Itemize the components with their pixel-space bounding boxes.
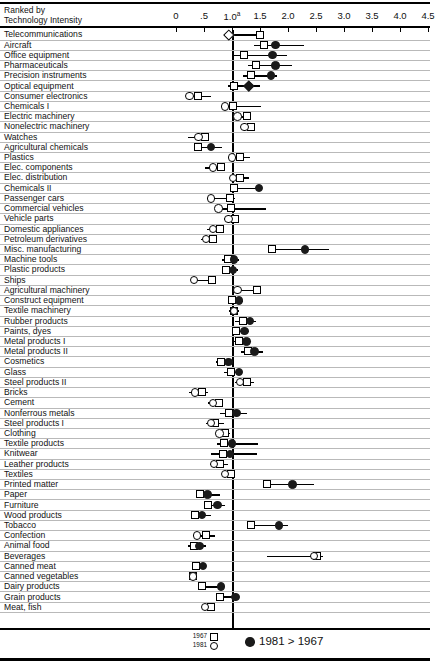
row-category-label: Petroleum derivatives — [4, 234, 87, 244]
row-category-label: Ships — [4, 275, 26, 285]
x-tick-footnote-marker: a — [237, 10, 241, 17]
marker-1967 — [194, 143, 202, 151]
chart-row: Steel products I — [0, 418, 430, 428]
marker-1967 — [229, 102, 237, 110]
row-category-label: Nonelectric machinery — [4, 121, 89, 131]
row-category-label: Elec. distribution — [4, 172, 67, 182]
row-category-label: Agricultural machinery — [4, 285, 89, 295]
marker-1981 — [207, 194, 215, 202]
chart-row: Metal products II — [0, 347, 430, 357]
chart-row: Confection — [0, 531, 430, 541]
x-axis-tick-labels: 0.51.0a1.52.02.53.03.54.04.5 — [0, 10, 430, 24]
marker-1981 — [224, 215, 232, 223]
marker-1967 — [236, 174, 244, 182]
legend: 1967 1981 1981 > 1967 — [0, 632, 430, 656]
row-category-label: Cement — [4, 397, 34, 407]
row-category-label: Domestic appliances — [4, 224, 84, 234]
x-tick-label: 3.5 — [359, 10, 385, 21]
chart-row: Nonferrous metals — [0, 408, 430, 418]
row-category-label: Beverages — [4, 551, 45, 561]
marker-1981 — [209, 399, 217, 407]
filled-circle-icon — [245, 637, 255, 647]
row-category-label: Machine tools — [4, 254, 57, 264]
row-category-label: Steel products II — [4, 377, 66, 387]
plot-area: TelecommunicationsAircraftOffice equipme… — [0, 30, 430, 628]
x-tick-label: .5 — [191, 10, 217, 21]
marker-1981 — [233, 286, 241, 294]
row-category-label: Textiles — [4, 469, 33, 479]
row-category-label: Optical equipment — [4, 81, 74, 91]
chart-row: Bricks — [0, 388, 430, 398]
marker-1981 — [233, 112, 241, 120]
marker-1967 — [208, 276, 216, 284]
marker-1967 — [230, 82, 238, 90]
marker-1981-increase — [255, 184, 263, 192]
row-baseline — [0, 612, 430, 613]
row-category-label: Misc. manufacturing — [4, 244, 81, 254]
row-category-label: Printed matter — [4, 479, 58, 489]
chart-row: Consumer electronics — [0, 91, 430, 101]
row-category-label: Passenger cars — [4, 193, 64, 203]
marker-1981-increase — [198, 511, 206, 519]
marker-1981-increase — [275, 521, 283, 529]
marker-1981-increase — [243, 81, 254, 92]
x-tick-label: 4.0 — [387, 10, 413, 21]
row-category-label: Aircraft — [4, 40, 31, 50]
marker-1981-increase — [213, 501, 221, 509]
chart-row: Commercial vehicles — [0, 204, 430, 214]
marker-1981 — [240, 123, 248, 131]
chart-row: Chemicals II — [0, 183, 430, 193]
marker-1981 — [310, 552, 318, 560]
marker-1981-increase — [246, 317, 254, 325]
square-marker-icon — [210, 633, 218, 641]
marker-1981-increase — [207, 143, 215, 151]
marker-1981 — [215, 429, 223, 437]
chart-row: Textile products — [0, 439, 430, 449]
circle-marker-icon — [210, 642, 218, 650]
row-category-label: Animal food — [4, 540, 50, 550]
chart-row: Furniture — [0, 500, 430, 510]
marker-1981 — [221, 102, 229, 110]
row-category-label: Nonferrous metals — [4, 408, 75, 418]
chart-row: Telecommunications — [0, 30, 430, 40]
row-category-label: Construct equipment — [4, 295, 84, 305]
row-category-label: Telecommunications — [4, 29, 82, 39]
row-category-label: Canned meat — [4, 561, 56, 571]
row-category-label: Meat, fish — [4, 602, 41, 612]
chart-row: Textiles — [0, 469, 430, 479]
marker-1967 — [268, 245, 276, 253]
row-category-label: Commercial vehicles — [4, 203, 84, 213]
x-tick-label: 4.5 — [415, 10, 439, 21]
chart-row: Agricultural chemicals — [0, 142, 430, 152]
marker-1981 — [209, 163, 217, 171]
chart-row: Leather products — [0, 459, 430, 469]
chart-row: Clothing — [0, 429, 430, 439]
marker-1981 — [194, 133, 202, 141]
marker-1981-increase — [228, 439, 236, 447]
marker-1981-increase — [271, 41, 279, 49]
x-tick-label: 1.0a — [219, 10, 245, 22]
row-category-label: Canned vegetables — [4, 571, 78, 581]
marker-1967 — [202, 531, 210, 539]
x-tick-label: 2.0 — [275, 10, 301, 21]
chart-row: Cosmetics — [0, 357, 430, 367]
row-category-label: Textile machinery — [4, 305, 71, 315]
chart-row: Wood products — [0, 510, 430, 520]
marker-1967 — [194, 92, 202, 100]
marker-1981 — [185, 92, 193, 100]
marker-1981-increase — [242, 337, 250, 345]
marker-1981-increase — [235, 368, 243, 376]
row-category-label: Metal products II — [4, 346, 68, 356]
chart-row: Steel products II — [0, 377, 430, 387]
marker-1981-increase — [271, 61, 279, 69]
marker-1967 — [220, 439, 228, 447]
row-category-label: Glass — [4, 367, 26, 377]
marker-1981 — [193, 531, 201, 539]
chart-row: Tobacco — [0, 521, 430, 531]
marker-1967 — [260, 41, 268, 49]
marker-1981-increase — [195, 542, 203, 550]
marker-1967 — [247, 521, 255, 529]
legend-note: 1981 > 1967 — [259, 635, 323, 647]
chart-row: Rubber products — [0, 316, 430, 326]
marker-1981-increase — [267, 71, 275, 79]
